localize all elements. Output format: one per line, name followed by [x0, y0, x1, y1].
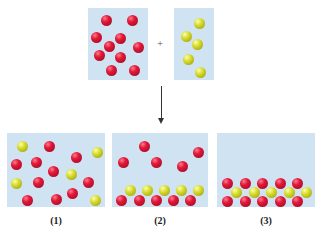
yellow-atom [181, 31, 192, 42]
product-label-3: (3) [246, 215, 286, 226]
red-atom [275, 178, 286, 189]
red-atom [116, 195, 127, 206]
red-atom [101, 15, 112, 26]
yellow-atom [194, 18, 205, 29]
red-atom [115, 52, 126, 63]
red-atom [44, 141, 55, 152]
yellow-atom [66, 169, 77, 180]
red-atom [222, 196, 233, 207]
red-atom [11, 159, 22, 170]
red-atom [292, 178, 303, 189]
plus-sign: + [157, 37, 163, 49]
red-atom [134, 195, 145, 206]
red-atom [185, 195, 196, 206]
red-atom [177, 161, 188, 172]
product-label-1: (1) [36, 215, 76, 226]
red-atom [222, 178, 233, 189]
yellow-atom [231, 187, 242, 198]
red-atom [22, 195, 33, 206]
red-atom [51, 194, 62, 205]
yellow-atom [193, 185, 204, 196]
red-atom [83, 177, 94, 188]
red-atom [104, 41, 115, 52]
red-atom [240, 196, 251, 207]
yellow-atom [266, 187, 277, 198]
red-atom [118, 157, 129, 168]
red-atom [139, 141, 150, 152]
red-atom [67, 188, 78, 199]
yellow-atom [142, 185, 153, 196]
yellow-atom [176, 185, 187, 196]
red-atom [151, 195, 162, 206]
yellow-atom [192, 39, 203, 50]
reaction-arrow [161, 86, 162, 119]
red-atom [151, 157, 162, 168]
red-atom [94, 50, 105, 61]
red-atom [115, 33, 126, 44]
product-label-2: (2) [140, 215, 180, 226]
red-atom [257, 178, 268, 189]
red-atom [193, 147, 204, 158]
yellow-atom [183, 54, 194, 65]
red-atom [168, 195, 179, 206]
arrow-head-icon [158, 118, 164, 124]
red-atom [33, 177, 44, 188]
yellow-atom [17, 141, 28, 152]
red-atom [127, 15, 138, 26]
red-atom [133, 42, 144, 53]
red-atom [275, 196, 286, 207]
red-atom [129, 65, 140, 76]
red-atom [292, 196, 303, 207]
red-atom [71, 152, 82, 163]
yellow-atom [92, 147, 103, 158]
red-atom [257, 196, 268, 207]
red-atom [31, 157, 42, 168]
yellow-atom [284, 187, 295, 198]
yellow-atom [301, 187, 312, 198]
red-atom [106, 65, 117, 76]
yellow-atom [90, 195, 101, 206]
yellow-atom [249, 187, 260, 198]
yellow-atom [159, 185, 170, 196]
yellow-atom [195, 67, 206, 78]
red-atom [91, 32, 102, 43]
yellow-atom [11, 178, 22, 189]
yellow-atom [125, 185, 136, 196]
red-atom [48, 166, 59, 177]
red-atom [240, 178, 251, 189]
